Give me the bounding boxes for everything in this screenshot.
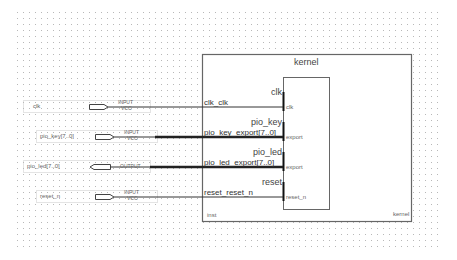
interface-reset: reset [262,178,282,187]
conduit-pio-led: pio_led_export[7..0] [204,159,274,167]
pin-default-clk: VCC [121,106,132,111]
pin-name-clk: clk [33,103,40,109]
input-pin-pio-key-icon[interactable] [96,135,115,140]
conduit-reset: reset_reset_n [204,189,253,197]
pin-default-pio-key: VCC [127,136,138,141]
interface-clk: clk [271,88,282,97]
conduit-clk: clk_clk [204,99,228,107]
signal-pio-led: export [286,164,303,170]
pin-type-pio-led: OUTPUT [120,164,141,169]
conduit-pio-key: pio_key_export[7..0] [204,129,276,137]
signal-reset: reset_n [286,194,306,200]
interface-pio-key: pio_key [251,118,282,127]
input-pin-reset-icon[interactable] [96,195,115,200]
pin-name-pio-led: pio_led[7..0] [27,163,60,169]
output-pin-pio-led-icon[interactable] [90,165,111,170]
block-instance-name: inst [207,212,216,218]
signal-clk: clk [286,104,293,110]
kernel-inner-box [284,78,330,210]
pin-name-reset: reset_n [40,193,60,199]
signal-pio-key: export [286,134,303,140]
pin-default-reset: VCC [127,196,138,201]
interface-pio-led: pio_led [253,148,282,157]
input-pin-clk-icon[interactable] [90,105,109,110]
block-type-name: kernel [393,211,409,217]
block-title: kernel [294,58,319,67]
pin-name-pio-key: pio_key[7..0] [40,133,74,139]
